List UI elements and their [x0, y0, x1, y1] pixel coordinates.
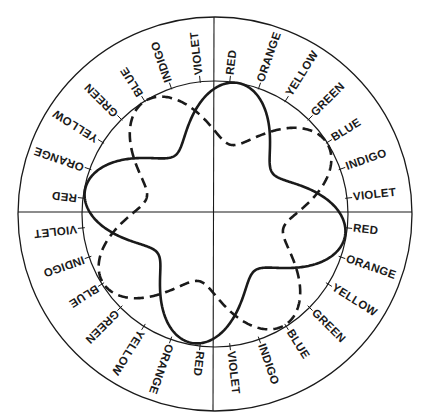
- ring-label-violet: VIOLET: [226, 350, 243, 394]
- ring-label-violet: VIOLET: [352, 186, 396, 203]
- ring-label-orange: ORANGE: [32, 145, 85, 174]
- ring-label-blue: BLUE: [67, 283, 101, 310]
- vertical-axis: [213, 17, 214, 411]
- label-ticks: [78, 76, 352, 350]
- label-tick: [117, 115, 122, 120]
- ring-label-violet: VIOLET: [33, 224, 77, 241]
- dashed-wave-curve: [99, 97, 332, 330]
- ring-label-violet: VIOLET: [188, 31, 205, 75]
- ring-label-orange: ORANGE: [147, 343, 176, 396]
- inner-ring-circle: [82, 81, 348, 347]
- ring-label-red: RED: [192, 351, 207, 377]
- ring-label-yellow: YELLOW: [330, 281, 380, 318]
- ring-label-green: GREEN: [310, 306, 348, 344]
- color-wheel-diagram: REDORANGEYELLOWGREENBLUEINDIGOVIOLETREDO…: [0, 0, 430, 420]
- label-tick: [230, 343, 231, 350]
- label-tick: [345, 198, 352, 199]
- ring-label-yellow: YELLOW: [50, 108, 100, 145]
- label-tick: [78, 228, 85, 229]
- ring-label-orange: ORANGE: [345, 252, 398, 281]
- label-tick: [339, 256, 346, 258]
- outer-ring-circle: [18, 17, 412, 411]
- ring-label-indigo: INDIGO: [42, 254, 86, 279]
- ring-label-green: GREEN: [308, 80, 346, 118]
- ring-label-green: GREEN: [82, 81, 120, 119]
- label-tick: [85, 256, 92, 258]
- ring-label-green: GREEN: [83, 308, 121, 346]
- ring-label-orange: ORANGE: [254, 30, 283, 83]
- ring-label-blue: BLUE: [285, 327, 312, 361]
- ring-label-indigo: INDIGO: [256, 342, 281, 386]
- ring-label-red: RED: [353, 222, 379, 237]
- ring-labels: REDORANGEYELLOWGREENBLUEINDIGOVIOLETREDO…: [32, 30, 398, 396]
- solid-wave-curve: [85, 83, 346, 344]
- ring-label-blue: BLUE: [118, 65, 145, 99]
- ring-label-indigo: INDIGO: [148, 40, 173, 84]
- ring-label-red: RED: [51, 190, 77, 205]
- label-tick: [308, 115, 313, 120]
- ring-label-blue: BLUE: [329, 116, 363, 143]
- ring-label-yellow: YELLOW: [283, 48, 320, 98]
- ring-label-indigo: INDIGO: [344, 146, 388, 171]
- ring-label-yellow: YELLOW: [110, 328, 147, 378]
- ring-label-red: RED: [224, 49, 239, 75]
